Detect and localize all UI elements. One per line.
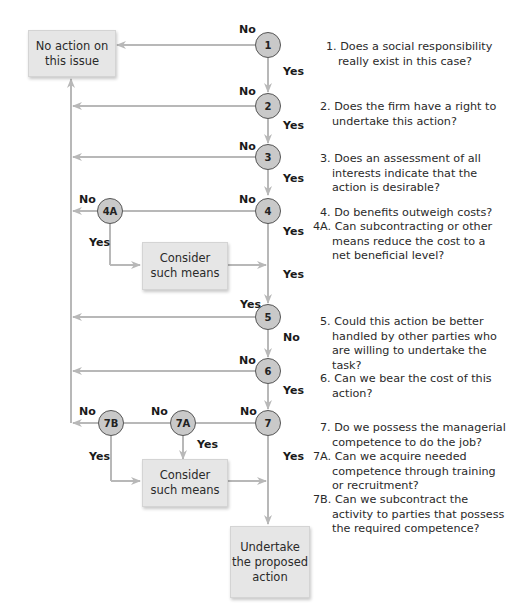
question-4: 4. Do benefits outweigh costs? bbox=[320, 206, 492, 221]
label-no-4a: No bbox=[79, 193, 96, 206]
label-no-6: No bbox=[239, 354, 256, 367]
label-no-7a: No bbox=[151, 405, 168, 418]
decision-node-7a: 7A bbox=[170, 410, 196, 436]
label-yes-7b: Yes bbox=[89, 450, 110, 463]
decision-node-4: 4 bbox=[255, 198, 281, 224]
no-action-box: No action on this issue bbox=[28, 30, 116, 77]
consider-means-box-2: Consider such means bbox=[142, 459, 228, 507]
label-yes-7a: Yes bbox=[197, 438, 218, 451]
question-6: 6. Can we bear the cost of this action? bbox=[320, 372, 492, 401]
label-yes-2: Yes bbox=[283, 119, 304, 132]
label-yes-6: Yes bbox=[283, 384, 304, 397]
question-7a: 7A. Can we acquire needed competence thr… bbox=[313, 450, 496, 494]
decision-node-7: 7 bbox=[255, 410, 281, 436]
question-2: 2. Does the firm have a right to underta… bbox=[320, 100, 496, 129]
consider-means-box-1: Consider such means bbox=[142, 242, 228, 290]
label-no-7b: No bbox=[79, 405, 96, 418]
label-yes-5: Yes bbox=[240, 298, 261, 311]
label-yes-3: Yes bbox=[283, 172, 304, 185]
question-3: 3. Does an assessment of all interests i… bbox=[320, 152, 481, 196]
label-no-2: No bbox=[239, 85, 256, 98]
question-4a: 4A. Can subcontracting or other means re… bbox=[313, 220, 492, 264]
label-yes-4: Yes bbox=[283, 225, 304, 238]
decision-node-6: 6 bbox=[255, 358, 281, 384]
label-no-7: No bbox=[240, 405, 257, 418]
question-1: 1. Does a social responsibility really e… bbox=[326, 40, 492, 69]
question-7b: 7B. Can we subcontract the activity to p… bbox=[313, 493, 504, 537]
label-no-3: No bbox=[239, 140, 256, 153]
decision-node-3: 3 bbox=[255, 144, 281, 170]
label-yes-merge-4: Yes bbox=[283, 268, 304, 281]
label-yes-1: Yes bbox=[283, 65, 304, 78]
question-5: 5. Could this action be better handled b… bbox=[320, 315, 497, 373]
label-yes-7: Yes bbox=[283, 450, 304, 463]
decision-node-7b: 7B bbox=[98, 410, 124, 436]
label-no-5: No bbox=[283, 331, 300, 344]
undertake-action-box: Undertake the proposed action bbox=[230, 526, 310, 598]
label-no-1: No bbox=[239, 23, 256, 36]
decision-node-2: 2 bbox=[255, 93, 281, 119]
decision-node-4a: 4A bbox=[97, 198, 123, 224]
label-no-4: No bbox=[239, 193, 256, 206]
label-yes-4a: Yes bbox=[89, 236, 110, 249]
decision-node-1: 1 bbox=[255, 32, 281, 58]
question-7: 7. Do we possess the managerial competen… bbox=[320, 421, 506, 450]
